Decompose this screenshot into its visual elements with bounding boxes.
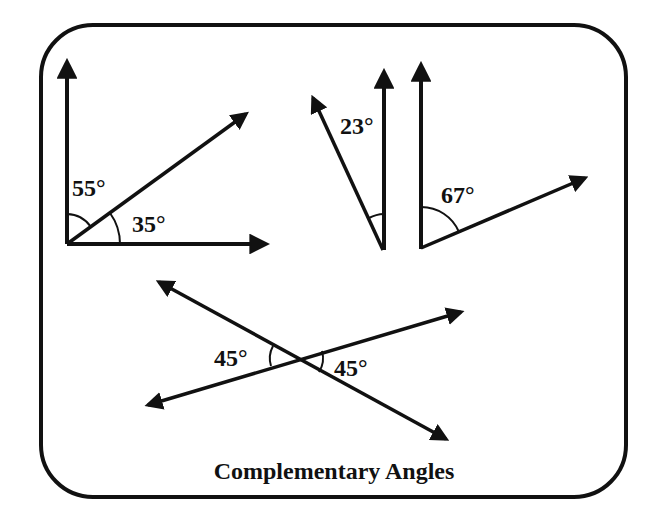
complementary-angles-diagram: 55° 35° 23° 67° 45° 45° Complementary <box>0 0 659 518</box>
angle-arc-67 <box>421 207 459 232</box>
figure-55-35: 55° 35° <box>67 62 266 244</box>
angle-arc-45-left <box>270 346 273 366</box>
angle-label-35: 35° <box>132 211 166 237</box>
diagram-canvas: 55° 35° 23° 67° 45° 45° Complementary <box>0 0 659 518</box>
diagram-frame <box>41 25 626 497</box>
angle-label-55: 55° <box>72 175 106 201</box>
figure-23: 23° <box>313 72 384 250</box>
angle-label-45-right: 45° <box>334 355 368 381</box>
figure-67: 67° <box>421 65 585 249</box>
angle-arc-23 <box>369 214 384 218</box>
angle-arc-35 <box>110 213 120 244</box>
line-ascending-double-arrow <box>148 312 461 405</box>
angle-label-23: 23° <box>340 113 374 139</box>
diagram-title: Complementary Angles <box>214 458 455 484</box>
angle-label-67: 67° <box>441 182 475 208</box>
angle-arc-55 <box>67 214 91 227</box>
figure-45-45: 45° 45° <box>148 282 461 439</box>
angle-label-45-left: 45° <box>214 345 248 371</box>
